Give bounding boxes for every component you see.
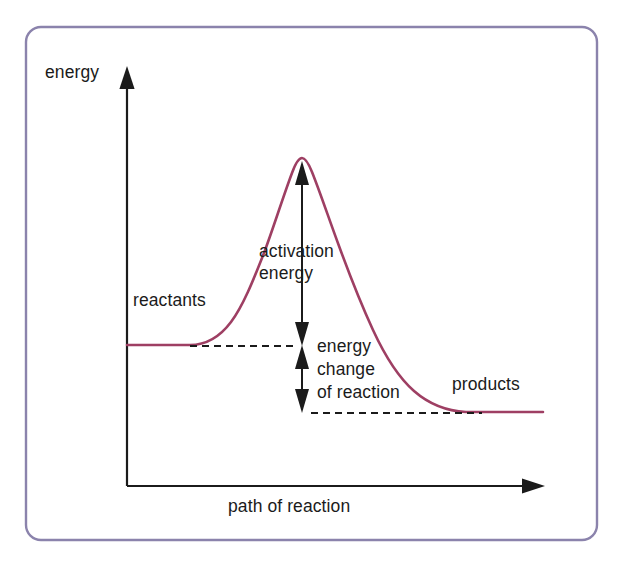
x-axis-label: path of reaction	[228, 496, 350, 516]
activation-energy-label-line2: energy	[259, 263, 313, 283]
figure-border	[26, 27, 597, 540]
y-axis-label: energy	[45, 62, 99, 82]
reactants-label: reactants	[133, 290, 206, 310]
products-label: products	[452, 374, 520, 394]
reaction-energy-profile-figure: energy path of reaction reactants produc…	[0, 0, 623, 565]
energy-profile-diagram: energy path of reaction reactants produc…	[0, 0, 623, 565]
activation-energy-label-line1: activation	[259, 241, 334, 261]
energy-change-label-line3: of reaction	[317, 382, 400, 402]
energy-change-label-line2: change	[317, 359, 375, 379]
energy-change-label-line1: energy	[317, 336, 371, 356]
